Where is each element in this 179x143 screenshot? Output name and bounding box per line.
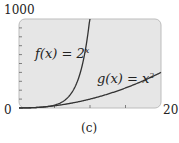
series-g-label: g(x) = x2: [97, 71, 154, 86]
series-f-label: f(x) = 2x: [35, 46, 89, 61]
plot-area: [19, 19, 161, 108]
x-max-label: 20: [163, 103, 178, 117]
x-min-label: 0: [4, 103, 12, 117]
figure-caption: (c): [81, 121, 97, 135]
y-max-label: 1000: [4, 3, 35, 17]
